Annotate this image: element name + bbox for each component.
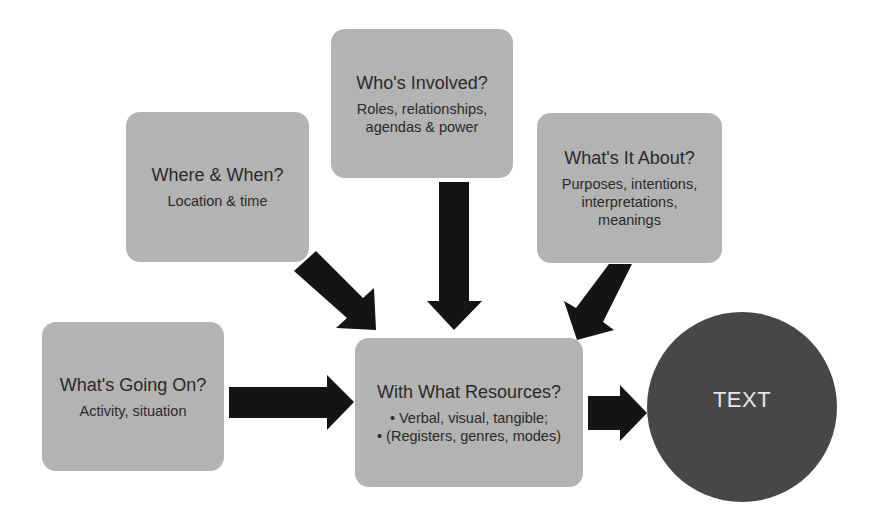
node-title: Who's Involved? bbox=[356, 72, 488, 94]
node-line: • Verbal, visual, tangible; bbox=[390, 409, 548, 427]
node-line: • (Registers, genres, modes) bbox=[377, 427, 561, 445]
node-title: What's It About? bbox=[564, 147, 695, 169]
node-line: agendas & power bbox=[366, 118, 479, 136]
arrow-about-to-resources bbox=[564, 264, 632, 340]
node-who-involved: Who's Involved? Roles, relationships, ag… bbox=[331, 29, 513, 178]
arrow-resources-to-text bbox=[588, 385, 647, 441]
node-title: What's Going On? bbox=[60, 374, 207, 396]
node-line: Purposes, intentions, bbox=[562, 175, 697, 193]
node-text-circle: TEXT bbox=[647, 312, 837, 502]
node-line: Location & time bbox=[168, 192, 268, 210]
node-title: Where & When? bbox=[151, 164, 283, 186]
arrow-who-to-resources bbox=[427, 182, 482, 330]
node-line: interpretations, bbox=[582, 193, 678, 211]
node-line: Roles, relationships, bbox=[357, 100, 488, 118]
node-whats-going-on: What's Going On? Activity, situation bbox=[42, 322, 224, 471]
arrow-where-to-resources bbox=[294, 251, 376, 330]
node-line: Activity, situation bbox=[80, 402, 187, 420]
node-with-what-resources: With What Resources? • Verbal, visual, t… bbox=[355, 338, 583, 487]
node-title: TEXT bbox=[713, 387, 771, 413]
arrow-going-to-resources bbox=[229, 375, 354, 430]
node-where-when: Where & When? Location & time bbox=[126, 112, 309, 262]
node-whats-it-about: What's It About? Purposes, intentions, i… bbox=[537, 113, 722, 263]
node-title: With What Resources? bbox=[377, 381, 561, 403]
node-line: meanings bbox=[598, 211, 661, 229]
